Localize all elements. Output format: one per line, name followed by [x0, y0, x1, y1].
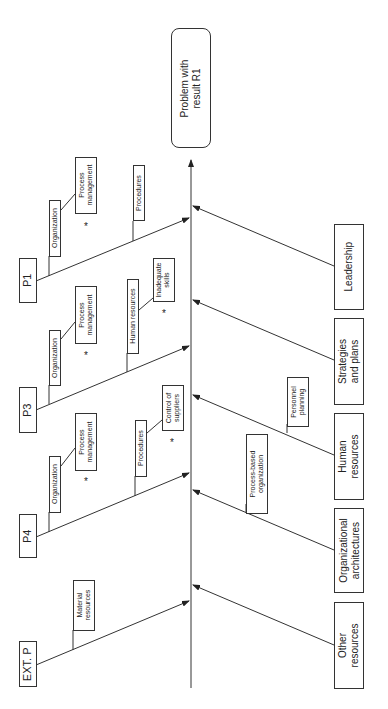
subcause-personnel-planning: Personnel planning: [287, 377, 309, 427]
source-box-p3: P3: [19, 387, 37, 433]
flag-star: *: [82, 221, 90, 232]
subcause-process-management-p3: Process management: [75, 286, 97, 344]
subcause-organization-p1: Organization: [49, 200, 61, 257]
cause-box-org-architectures: Organizational architectures: [334, 508, 364, 593]
subcause-organization-p3: Organization: [49, 330, 61, 386]
cause-box-other-resources: Other resources: [334, 602, 364, 689]
flag-star: *: [168, 437, 176, 448]
subcause-procedures-p4: Procedures: [135, 420, 147, 477]
subcause-inadequate-skills-p3: Inadequate skills: [153, 258, 175, 302]
subcause-process-management-p1: Process management: [75, 157, 97, 214]
flag-star: *: [160, 308, 168, 319]
source-box-p4: P4: [19, 514, 37, 558]
subcause-control-of-suppliers-p4: Control of suppliers: [162, 385, 184, 431]
subcause-procedures-p1: Procedures: [133, 165, 145, 221]
subcause-human-resources-p3: Human resources: [127, 279, 139, 354]
subcause-material-resources-extp: Material resources: [73, 580, 95, 631]
cause-box-human-resources: Human resources: [334, 413, 364, 500]
subcause-process-based-organization: Process-based organization: [246, 434, 268, 514]
problem-box: Problem with result R1: [171, 28, 211, 148]
source-box-p1: P1: [19, 258, 37, 303]
problem-label: Problem with result R1: [180, 59, 203, 117]
subcause-organization-p4: Organization: [49, 456, 61, 513]
flag-star: *: [82, 476, 90, 487]
flag-star: *: [82, 350, 90, 361]
subcause-process-management-p4: Process management: [75, 413, 97, 471]
cause-box-leadership: Leadership: [334, 224, 364, 310]
source-box-extp: EXT. P: [19, 641, 37, 687]
cause-box-strategies: Strategies and plans: [334, 318, 364, 405]
